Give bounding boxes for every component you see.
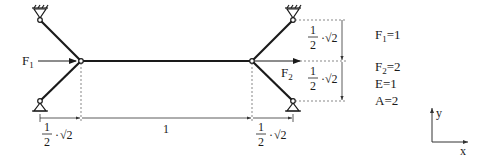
param-f2: F2=2: [375, 59, 401, 76]
dim-label-middle: 1: [163, 122, 169, 136]
member-top-left: [40, 20, 81, 61]
param-e: E=1: [375, 76, 397, 91]
svg-text:·: ·: [269, 128, 273, 142]
param-a: A=2: [375, 93, 398, 108]
svg-text:·: ·: [55, 128, 59, 142]
svg-text:F1: F1: [22, 53, 34, 70]
svg-text:2: 2: [44, 135, 50, 149]
truss-diagram: F1 F2 1 2 · √2 1 1 2 · √2: [0, 0, 493, 158]
support-bottom-right: [285, 99, 301, 111]
svg-text:2: 2: [310, 79, 316, 93]
svg-text:1: 1: [258, 120, 264, 134]
dim-label-upper-vertical: 1 2 · √2: [308, 23, 338, 52]
svg-text:√2: √2: [274, 128, 287, 142]
dimension-horizontal: [40, 114, 293, 122]
svg-text:1: 1: [310, 64, 316, 78]
svg-text:1: 1: [44, 120, 50, 134]
svg-text:F2: F2: [281, 65, 293, 82]
param-f1: F1=1: [375, 27, 401, 44]
member-bottom-left: [40, 61, 81, 101]
support-bottom-left: [32, 99, 48, 111]
svg-text:√2: √2: [325, 72, 338, 86]
support-top-left: [32, 5, 48, 22]
dim-label-right: 1 2 · √2: [256, 120, 287, 149]
svg-text:1: 1: [310, 23, 316, 37]
right-joint: [250, 59, 255, 64]
coordinate-axes: y x: [432, 106, 468, 158]
svg-text:√2: √2: [325, 31, 338, 45]
svg-text:√2: √2: [60, 128, 73, 142]
member-top-right: [252, 20, 293, 61]
y-axis-label: y: [436, 106, 442, 120]
left-joint: [79, 59, 84, 64]
svg-text:2: 2: [258, 135, 264, 149]
svg-text:2: 2: [310, 38, 316, 52]
support-top-right: [285, 5, 301, 22]
x-axis-label: x: [460, 144, 466, 158]
dim-label-left: 1 2 · √2: [42, 120, 73, 149]
extension-lines: [81, 20, 346, 122]
parameter-list: F1=1 F2=2 E=1 A=2: [375, 27, 401, 108]
load-f1: F1: [22, 53, 76, 70]
dim-label-lower-vertical: 1 2 · √2: [308, 64, 338, 93]
